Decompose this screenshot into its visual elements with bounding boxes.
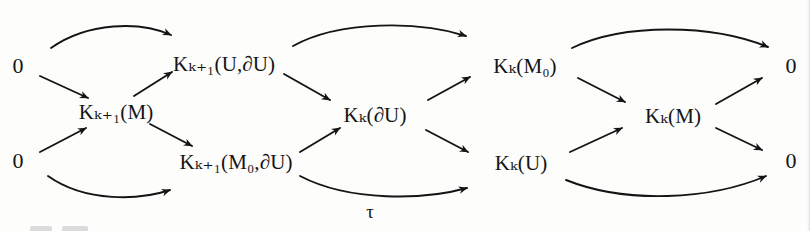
- arrow-kk-m0-to-zero-tr: [572, 30, 768, 49]
- arrow-kk1-udu-to-kk-du: [284, 74, 330, 100]
- scan-artifact-left-2: [62, 226, 88, 231]
- arrow-kk-du-to-kk-u: [426, 130, 468, 152]
- node-zero-top-left: 0: [13, 55, 24, 77]
- arrow-kk-u-to-kk-m: [570, 128, 622, 152]
- node-k-k-du: Kₖ(∂U): [344, 105, 407, 126]
- arrow-kk-m-to-zero-tr: [716, 78, 762, 104]
- arrow-kk-m-to-zero-br: [716, 128, 762, 150]
- node-zero-top-right: 0: [786, 55, 797, 77]
- arrow-kk-m0-to-kk-m: [578, 78, 625, 102]
- node-k-kplus1-m0-du: Kₖ₊₁(M₀,∂U): [179, 152, 292, 173]
- node-k-k-m: Kₖ(M): [645, 106, 701, 127]
- edge-label-tau: τ: [366, 202, 374, 221]
- node-k-kplus1-m: Kₖ₊₁(M): [79, 102, 154, 123]
- scan-artifact-left: [30, 226, 52, 231]
- arrow-kk1-udu-to-kk-m0: [293, 25, 466, 46]
- arrow-kk-du-to-kk-m0: [428, 77, 470, 100]
- node-k-kplus1-u-du: Kₖ₊₁(U,∂U): [173, 54, 275, 75]
- arrow-zero-bl-to-kk1-m: [40, 128, 86, 152]
- arrow-kk1-m-to-kk1-m0du: [150, 124, 192, 146]
- arrow-kk-u-to-zero-br: [566, 176, 766, 196]
- node-k-k-u: Kₖ(U): [495, 153, 547, 174]
- arrow-kk1-m-to-kk1-udu: [134, 72, 172, 96]
- arrow-zero-bl-to-kk1-m0du: [48, 176, 170, 197]
- node-k-k-m0: Kₖ(M₀): [493, 56, 556, 77]
- diagram-canvas: 0 0 Kₖ₊₁(M) Kₖ₊₁(U,∂U) Kₖ₊₁(M₀,∂U) Kₖ(∂U…: [0, 0, 810, 231]
- arrow-zero-tl-to-kk1-udu: [51, 26, 171, 48]
- node-zero-bottom-right: 0: [786, 150, 797, 172]
- arrow-tau-kk1-m0du-to-kk-u: [300, 176, 467, 197]
- arrow-kk1-m0du-to-kk-du: [300, 128, 340, 152]
- node-zero-bottom-left: 0: [13, 150, 24, 172]
- arrow-zero-tl-to-kk1-m: [40, 76, 88, 98]
